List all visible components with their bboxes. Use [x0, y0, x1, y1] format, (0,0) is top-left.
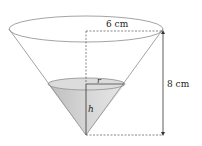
label-radius-top: 6 cm: [106, 19, 129, 29]
water-body: [48, 84, 125, 135]
cone-figure: 6 cm 8 cm r h: [0, 0, 202, 146]
cone-diagram: 6 cm 8 cm r h: [0, 0, 202, 146]
label-water-height: h: [88, 104, 94, 114]
label-height-total: 8 cm: [167, 79, 190, 89]
